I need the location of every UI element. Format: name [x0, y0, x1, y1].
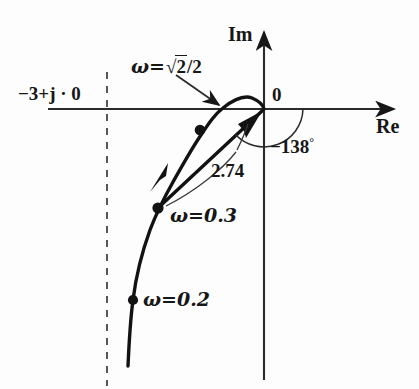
- marker-omega-03: [152, 202, 163, 213]
- asymptote-label: −3+j · 0: [18, 84, 81, 103]
- omega-03-label: ω=0.3: [170, 206, 237, 225]
- nyquist-locus-curve: [128, 97, 264, 366]
- magnitude-vector-arrow-icon: [238, 111, 262, 138]
- omega-03-label-text: ω=0.3: [170, 204, 237, 226]
- omega-sqrt2-leader-line: [176, 75, 219, 105]
- imaginary-axis-label: Im: [228, 24, 252, 44]
- omega-sqrt2-prefix: ω=: [131, 55, 165, 77]
- degree-symbol-icon: °: [309, 135, 314, 149]
- omega-sqrt2-divider: /2: [187, 56, 202, 77]
- marker-unlabeled: [195, 125, 206, 136]
- omega-02-label: ω=0.2: [143, 290, 210, 309]
- omega-sqrt2-label: ω=√2/2: [131, 57, 202, 76]
- plot-canvas: [0, 0, 419, 389]
- omega-sqrt2-radicand: 2: [175, 55, 187, 77]
- origin-label: 0: [272, 85, 282, 104]
- angle-label: −138°: [270, 136, 314, 156]
- real-axis-label-text: Re: [376, 115, 399, 137]
- imaginary-axis-label-text: Im: [228, 23, 252, 45]
- real-axis-label: Re: [376, 116, 399, 136]
- nyquist-plot-figure: −3+j · 0 ω=√2/2 Im 0 Re −138° 2.74 ω=0.3…: [0, 0, 419, 389]
- asymptote-label-text: −3+j · 0: [18, 83, 81, 104]
- omega-02-label-text: ω=0.2: [143, 288, 210, 310]
- angle-label-value: −138: [270, 136, 309, 157]
- marker-omega-02: [128, 295, 138, 305]
- magnitude-label: 2.74: [211, 161, 244, 180]
- origin-label-text: 0: [272, 84, 282, 105]
- magnitude-label-text: 2.74: [211, 160, 244, 181]
- locus-direction-arrow-icon: [150, 163, 168, 192]
